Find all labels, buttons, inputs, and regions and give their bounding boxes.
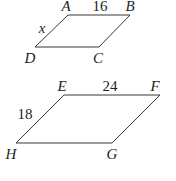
side-label-ef: 24 xyxy=(103,78,119,94)
side-label-eh: 18 xyxy=(18,106,33,122)
vertex-label-a: A xyxy=(60,0,71,14)
diagram-canvas: A B C D 16 x E F G H 24 18 xyxy=(0,0,176,181)
parallelogram-efgh-outline xyxy=(16,95,160,143)
vertex-label-d: D xyxy=(24,50,36,66)
vertex-label-f: F xyxy=(149,78,160,94)
vertex-label-h: H xyxy=(5,146,18,162)
vertex-label-c: C xyxy=(93,50,104,66)
parallelogram-abcd-outline xyxy=(35,15,130,47)
parallelogram-efgh: E F G H 24 18 xyxy=(5,78,161,162)
side-label-ad: x xyxy=(38,20,46,36)
vertex-label-e: E xyxy=(56,78,66,94)
side-label-ab: 16 xyxy=(93,0,109,14)
vertex-label-g: G xyxy=(107,146,118,162)
vertex-label-b: B xyxy=(125,0,134,14)
parallelogram-abcd: A B C D 16 x xyxy=(24,0,135,66)
